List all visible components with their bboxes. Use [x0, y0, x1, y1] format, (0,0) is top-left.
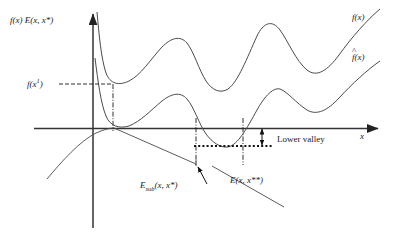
- y-axis-label-text: f(x) E(x, x*): [10, 15, 53, 25]
- segment-e-sub: [114, 128, 196, 164]
- figure-canvas: f(x) E(x, x*) f(x1) x f(x) ^f(x) Esub(x,…: [0, 0, 393, 236]
- hat-accent-icon: ^: [352, 47, 356, 56]
- annotation-lower-valley-text: Lower valley: [277, 134, 325, 144]
- y-tick-label-close: ): [40, 79, 43, 89]
- annotation-e-sub-suffix: (x, x*): [155, 180, 178, 190]
- annotation-e-double-star: E(x, x**): [230, 176, 263, 185]
- curve-left-rising-arc: [47, 128, 114, 179]
- annotation-e-double-star-text: E(x, x**): [230, 175, 263, 185]
- annotation-e-sub-subscript: sub: [146, 185, 155, 192]
- annotation-lower-valley: Lower valley: [277, 135, 325, 144]
- x-axis-label-text: x: [360, 131, 364, 141]
- y-tick-label-f-x1: f(x1): [27, 78, 43, 89]
- curve-label-f-text: f(x): [352, 12, 365, 22]
- curve-label-f-hat-hat: ^f(x): [352, 53, 365, 62]
- x-axis-label: x: [360, 132, 364, 141]
- diagram-svg: [0, 0, 393, 236]
- curve-f: [97, 9, 380, 91]
- y-axis-label: f(x) E(x, x*): [10, 16, 53, 25]
- annotation-e-sub: Esub(x, x*): [140, 181, 178, 192]
- curve-f-hat: [95, 58, 380, 147]
- segment-e-double-star: [212, 166, 284, 207]
- curve-label-f-hat: ^f(x): [352, 53, 365, 62]
- curve-label-f: f(x): [352, 13, 365, 22]
- pointer-arrow-e-sub: [198, 167, 207, 184]
- y-tick-label-base: f(x: [27, 79, 37, 89]
